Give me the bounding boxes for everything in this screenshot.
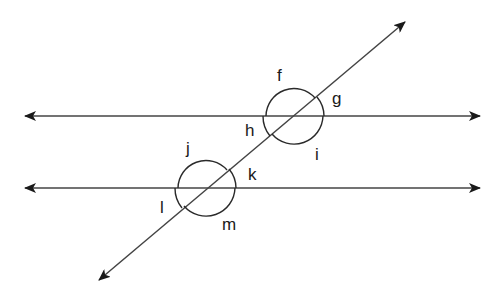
angle-arc-i <box>272 116 323 144</box>
angle-label-g: g <box>332 89 341 108</box>
angle-label-i: i <box>315 145 319 164</box>
angle-arc-f <box>266 89 315 116</box>
angle-arc-l <box>175 188 182 208</box>
angle-label-f: f <box>277 66 282 85</box>
angle-label-m: m <box>222 215 236 234</box>
angle-arc-k <box>229 169 236 188</box>
angle-arc-j <box>178 161 227 188</box>
angle-arc-h <box>263 116 270 136</box>
angle-label-h: h <box>245 121 254 140</box>
angle-label-l: l <box>160 198 164 217</box>
angle-label-k: k <box>248 165 257 184</box>
transversal-line <box>99 22 405 280</box>
diagram-canvas: f g h i j k l m <box>0 0 499 297</box>
angle-arc-g <box>317 97 324 116</box>
angle-label-j: j <box>185 139 190 158</box>
